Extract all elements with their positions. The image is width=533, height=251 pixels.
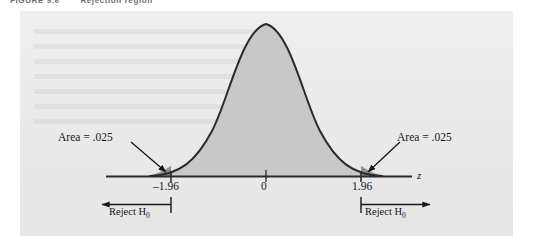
figure-root: FIGURE 9.6 Rejection region — [0, 0, 533, 251]
left-area-leader-line — [131, 142, 166, 172]
left-reject-text: Reject H — [109, 206, 146, 217]
left-reject-label: Reject H0 — [109, 206, 150, 220]
figure-caption-number: FIGURE 9.6 — [10, 0, 60, 5]
x-axis-variable-label: z — [417, 169, 421, 181]
x-tick-label-right: 1.96 — [352, 180, 372, 192]
left-reject-subscript: 0 — [146, 211, 150, 220]
x-tick-label-center: 0 — [261, 180, 267, 192]
figure-caption: FIGURE 9.6 Rejection region — [10, 0, 430, 6]
figure-caption-title: Rejection region — [80, 0, 152, 5]
curve-body-fill — [150, 24, 382, 176]
figure-panel: Area = .025 Area = .025 –1.96 0 1.96 z R… — [20, 11, 513, 236]
right-reject-text: Reject H — [365, 206, 402, 217]
right-area-label: Area = .025 — [397, 131, 452, 143]
right-reject-label: Reject H0 — [365, 206, 406, 220]
normal-curve-plot — [20, 11, 513, 236]
x-tick-label-left: –1.96 — [153, 180, 179, 192]
right-area-leader-line — [368, 142, 400, 172]
left-area-label: Area = .025 — [58, 131, 113, 143]
right-reject-subscript: 0 — [402, 211, 406, 220]
